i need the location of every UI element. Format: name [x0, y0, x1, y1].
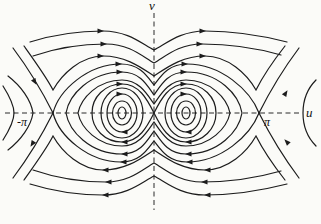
tick-label-negative-pi: -π: [17, 115, 28, 129]
open-trajectory-bottom-2: [33, 163, 281, 182]
flow-arrow: [121, 151, 128, 156]
tick-label-pi: π: [264, 115, 271, 129]
flow-arrow: [116, 61, 123, 66]
flow-arrow: [98, 28, 105, 33]
flow-arrow: [120, 159, 127, 164]
flow-arrow: [204, 192, 211, 197]
phase-portrait-figure: v u -π π: [0, 0, 321, 224]
adjacent-orbit-left-vertex: [8, 76, 33, 150]
flow-arrow: [102, 167, 109, 172]
open-trajectory-top-2: [33, 44, 281, 63]
flow-arrow: [181, 91, 188, 96]
flow-arrow: [117, 81, 124, 86]
flow-arrow: [101, 41, 108, 46]
flow-arrow: [28, 140, 36, 148]
flow-arrow: [105, 179, 112, 184]
flow-arrow: [200, 53, 207, 58]
u-axis-label: u: [306, 105, 313, 120]
flow-arrow: [117, 91, 124, 96]
flow-arrow: [98, 53, 105, 58]
flow-arrow: [201, 179, 208, 184]
flow-arrow: [181, 69, 188, 74]
flow-arrow: [121, 139, 128, 144]
flow-arrow: [182, 61, 189, 66]
flow-arrow: [282, 89, 290, 97]
flow-arrow: [186, 159, 193, 164]
separatrix-branch-right-up: [259, 48, 299, 113]
flow-arrow: [185, 151, 192, 156]
flow-arrow: [204, 167, 211, 172]
v-axis-label: v: [149, 0, 155, 13]
flow-arrow: [197, 41, 204, 46]
flow-arrow: [282, 137, 290, 145]
flow-arrow: [181, 81, 188, 86]
flow-arrow: [102, 192, 109, 197]
flow-arrow: [200, 28, 207, 33]
flow-arrow: [185, 139, 192, 144]
flow-arrow: [117, 69, 124, 74]
flow-arrow: [121, 129, 128, 134]
flow-arrow: [185, 129, 192, 134]
